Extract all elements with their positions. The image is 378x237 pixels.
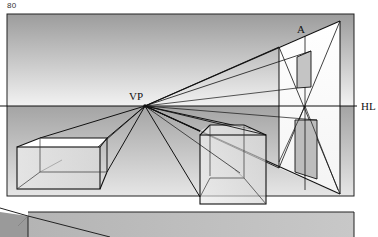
point-a-label: A [297,23,305,35]
next-figure-panel [0,208,354,237]
horizon-line-label: HL [361,100,376,112]
perspective-diagram: HL VP A [0,0,378,237]
vanishing-point-label: VP [129,90,143,102]
